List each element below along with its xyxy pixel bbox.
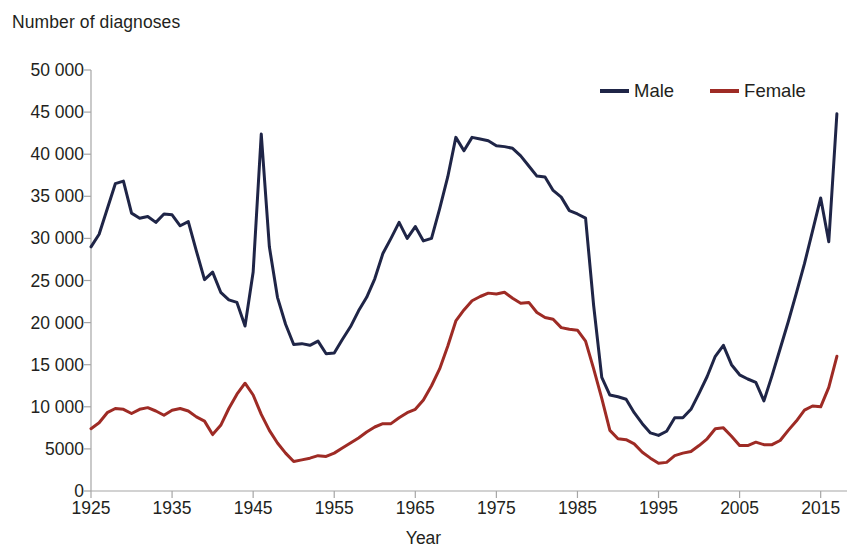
series-line-male [91, 114, 837, 436]
data-series-group [91, 114, 837, 463]
legend-entry-male: Male [600, 82, 674, 101]
x-axis-tick-label: 1985 [558, 498, 597, 519]
legend-label-female: Female [744, 82, 806, 101]
legend-swatch-male [600, 89, 629, 93]
line-chart: Number of diagnoses 0500010 00015 00020 … [0, 0, 847, 549]
x-axis-tick-label: 1955 [315, 498, 354, 519]
x-axis-tick-label: 1975 [477, 498, 516, 519]
x-axis-tick-label: 1935 [153, 498, 192, 519]
x-axis-tick-label: 1945 [234, 498, 273, 519]
legend-entry-female: Female [710, 82, 806, 101]
chart-legend: MaleFemale [600, 82, 806, 101]
legend-label-male: Male [634, 82, 674, 101]
x-axis-tick-label: 1925 [72, 498, 111, 519]
x-axis-tick-label: 1965 [396, 498, 435, 519]
x-axis-tick-label: 1995 [639, 498, 678, 519]
x-axis-tick-label: 2005 [720, 498, 759, 519]
x-axis-title: Year [0, 528, 847, 549]
series-line-female [91, 292, 837, 463]
legend-swatch-female [710, 89, 739, 93]
x-axis-tick-label: 2015 [801, 498, 840, 519]
